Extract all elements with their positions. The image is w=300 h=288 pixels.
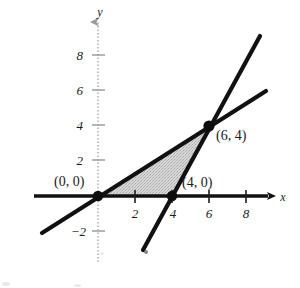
x-tick-label-4: 4: [170, 206, 177, 221]
annotation-origin: (0, 0): [54, 174, 85, 190]
y-tick-label-8: 8: [77, 48, 84, 63]
y-axis-label: y: [96, 5, 103, 19]
point-origin: [93, 191, 103, 201]
annotation-intersection: (6, 4): [216, 128, 247, 144]
x-axis-label: x: [279, 190, 286, 204]
point-intersection: [203, 120, 214, 131]
point-x-intercept: [167, 191, 177, 201]
y-tick-label-2: 2: [77, 153, 84, 168]
scan-speck: [2, 282, 10, 286]
scan-speck: [74, 284, 81, 287]
annotation-x-intercept: (4, 0): [182, 175, 213, 191]
x-tick-label-6: 6: [206, 206, 213, 221]
scan-speck: [100, 252, 104, 255]
y-tick-label-4: 4: [77, 118, 84, 133]
scan-speck: [144, 250, 148, 254]
graph-figure: 8 6 4 2 −2 2 4 6 8 x y (0, 0) (4, 0) (6,…: [0, 0, 300, 288]
coordinate-plane-graph: 8 6 4 2 −2 2 4 6 8 x y (0, 0) (4, 0) (6,…: [0, 0, 300, 288]
x-tick-label-2: 2: [132, 206, 139, 221]
y-tick-label-neg2: −2: [71, 224, 87, 239]
y-tick-label-6: 6: [77, 83, 84, 98]
x-tick-label-8: 8: [243, 206, 250, 221]
